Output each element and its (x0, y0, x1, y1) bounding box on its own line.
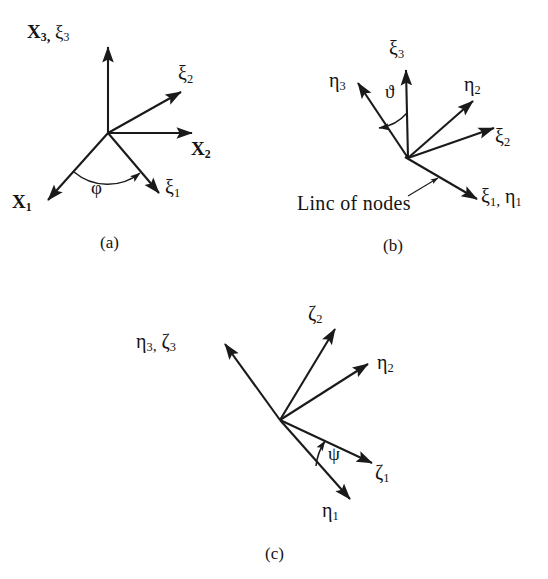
panel-caption-b: (b) (383, 237, 403, 254)
axis-label-xi1-eta1: ξ1, η1 (481, 186, 522, 209)
axis-arrow-eta2 (280, 364, 368, 420)
panel-caption-c: (c) (265, 545, 284, 562)
angle-arc-phi (74, 172, 140, 184)
axis-arrow-zeta1 (280, 420, 372, 463)
axis-label-zeta2: ζ2 (308, 303, 322, 326)
axis-arrow-xi2 (108, 92, 181, 133)
axis-arrow-zeta2 (280, 329, 335, 420)
axis-label-X2: X2 (191, 139, 211, 161)
panel-c-axes (225, 329, 372, 499)
axis-label-eta2-c: η2 (377, 352, 394, 375)
axis-arrow-eta3 (358, 83, 408, 158)
euler-angles-figure: X3, ξ3 ξ2 X2 ξ1 X1 φ (a) ξ3 η3 η2 ξ2 ξ1,… (0, 0, 548, 579)
axis-label-X3-xi3: X3, ξ3 (27, 22, 69, 44)
axis-arrow-xi1-eta1 (405, 157, 477, 199)
angle-label-psi: ψ (328, 444, 340, 463)
axis-label-xi3-b: ξ3 (389, 38, 404, 61)
axis-label-eta1-c: η1 (322, 500, 339, 523)
axis-label-X1: X1 (12, 192, 32, 214)
axis-arrow-xi2 (408, 128, 494, 158)
axis-label-eta2-b: η2 (464, 74, 481, 97)
axis-label-xi1-a: ξ1 (165, 177, 180, 200)
axis-label-zeta1: ζ1 (375, 462, 389, 485)
axis-label-xi2-b: ξ2 (495, 126, 510, 149)
line-of-nodes-label: Linc of nodes (297, 193, 411, 213)
angle-label-theta: ϑ (385, 82, 394, 101)
panel-caption-a: (a) (100, 234, 119, 251)
leader-line-of-nodes (408, 178, 438, 196)
axis-arrow-eta3-zeta3 (225, 344, 280, 420)
axis-label-eta3-b: η3 (329, 70, 346, 93)
angle-label-phi: φ (91, 178, 102, 197)
axis-arrow-eta2 (408, 101, 473, 158)
axis-label-eta3-zeta3: η3, ζ3 (136, 331, 176, 354)
axis-label-xi2-a: ξ2 (178, 63, 193, 86)
